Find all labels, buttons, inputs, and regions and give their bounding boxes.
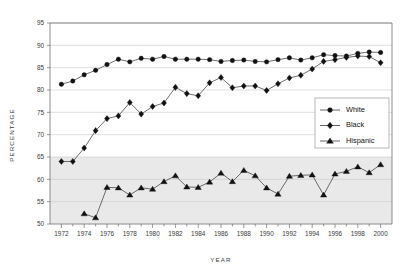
data-point-circle xyxy=(328,108,333,113)
x-tick-label: 1994 xyxy=(305,230,320,237)
data-point-circle xyxy=(230,58,234,62)
y-tick-label: 60 xyxy=(37,176,45,183)
data-point-diamond xyxy=(184,91,189,97)
x-tick-label: 1972 xyxy=(54,230,69,237)
data-point-circle xyxy=(116,57,120,61)
legend-label: Hispanic xyxy=(346,136,375,145)
data-point-circle xyxy=(196,57,200,61)
data-point-diamond xyxy=(150,103,155,109)
data-point-circle xyxy=(242,58,246,62)
y-tick-label: 75 xyxy=(37,109,45,116)
y-tick-label: 70 xyxy=(37,131,45,138)
chart-legend: WhiteBlackHispanic xyxy=(315,98,389,148)
y-axis-ticks: 50556065707580859095 xyxy=(37,19,50,227)
data-point-diamond xyxy=(321,58,326,64)
data-point-circle xyxy=(71,79,75,83)
y-tick-label: 50 xyxy=(37,220,45,227)
data-point-diamond xyxy=(253,83,258,89)
data-point-diamond xyxy=(264,87,269,93)
x-tick-label: 1978 xyxy=(123,230,138,237)
data-point-diamond xyxy=(310,66,315,72)
data-point-diamond xyxy=(241,83,246,89)
shaded-range-band xyxy=(50,157,392,224)
x-tick-label: 1992 xyxy=(282,230,297,237)
x-tick-label: 1976 xyxy=(100,230,115,237)
data-point-diamond xyxy=(218,74,223,80)
x-tick-label: 2000 xyxy=(373,230,388,237)
data-point-circle xyxy=(310,56,314,60)
x-tick-label: 1988 xyxy=(237,230,252,237)
data-point-diamond xyxy=(287,75,292,81)
y-tick-label: 90 xyxy=(37,42,45,49)
data-point-circle xyxy=(253,59,257,63)
x-tick-label: 1982 xyxy=(168,230,183,237)
data-point-circle xyxy=(378,50,382,54)
data-point-circle xyxy=(264,60,268,64)
series-white xyxy=(59,50,383,87)
y-tick-label: 65 xyxy=(37,153,45,160)
data-point-diamond xyxy=(275,81,280,87)
legend-label: White xyxy=(346,105,365,114)
x-tick-label: 1980 xyxy=(145,230,160,237)
data-point-circle xyxy=(59,82,63,86)
data-point-circle xyxy=(128,60,132,64)
data-point-diamond xyxy=(298,72,303,78)
data-point-circle xyxy=(276,57,280,61)
data-point-circle xyxy=(82,73,86,77)
data-point-circle xyxy=(207,57,211,61)
x-tick-label: 1984 xyxy=(191,230,206,237)
data-point-circle xyxy=(139,56,143,60)
x-tick-label: 1996 xyxy=(328,230,343,237)
x-tick-label: 1998 xyxy=(351,230,366,237)
shaded-band-layer xyxy=(50,157,392,224)
data-point-circle xyxy=(299,58,303,62)
x-axis-title: YEAR xyxy=(210,256,231,263)
chart-container: 50556065707580859095 1972197419761978198… xyxy=(0,0,412,276)
y-tick-label: 80 xyxy=(37,86,45,93)
data-point-circle xyxy=(93,68,97,72)
x-tick-label: 1990 xyxy=(259,230,274,237)
data-point-diamond xyxy=(367,53,372,59)
x-axis-ticks: 1972197419761978198019821984198619881990… xyxy=(54,224,388,237)
data-point-circle xyxy=(219,59,223,63)
data-point-circle xyxy=(321,52,325,56)
data-point-circle xyxy=(287,56,291,60)
data-point-circle xyxy=(173,57,177,61)
data-point-circle xyxy=(105,62,109,66)
legend-label: Black xyxy=(346,120,364,129)
y-tick-label: 95 xyxy=(37,19,45,26)
data-point-circle xyxy=(185,57,189,61)
x-tick-label: 1974 xyxy=(77,230,92,237)
y-axis-title: PERCENTAGE xyxy=(8,108,15,162)
data-point-circle xyxy=(162,54,166,58)
y-tick-label: 55 xyxy=(37,198,45,205)
y-tick-label: 85 xyxy=(37,64,45,71)
x-tick-label: 1986 xyxy=(214,230,229,237)
data-point-diamond xyxy=(378,60,383,66)
line-chart: 50556065707580859095 1972197419761978198… xyxy=(0,0,412,276)
data-point-circle xyxy=(150,57,154,61)
data-point-diamond xyxy=(332,57,337,63)
